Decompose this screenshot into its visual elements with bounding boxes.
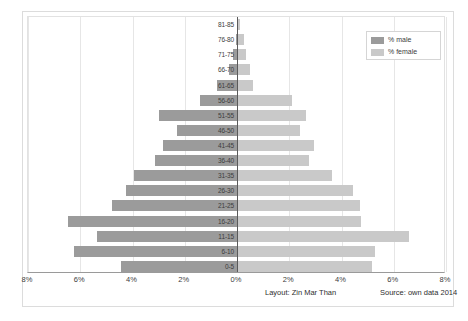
bar-female bbox=[237, 261, 372, 272]
bar-female bbox=[237, 110, 306, 121]
age-group-label: 6-10 bbox=[221, 246, 234, 257]
bar-female bbox=[237, 140, 314, 151]
age-group-label: 66-70 bbox=[218, 64, 234, 75]
layout-credit: Layout: Zin Mar Than bbox=[265, 288, 336, 297]
age-group-label: 46-50 bbox=[218, 125, 234, 136]
pyramid-row: 41-45 bbox=[28, 140, 444, 151]
pyramid-row: 81-85 bbox=[28, 19, 444, 30]
source-credit: Source: own data 2014 bbox=[380, 288, 457, 297]
pyramid-row: 16-20 bbox=[28, 216, 444, 227]
pyramid-row: 66-70 bbox=[28, 64, 444, 75]
age-group-label: 51-55 bbox=[218, 110, 234, 121]
chart-legend: % male % female bbox=[366, 31, 441, 60]
x-tick-label: 8% bbox=[440, 275, 451, 284]
chart-footer: Layout: Zin Mar Than Source: own data 20… bbox=[27, 288, 445, 300]
pyramid-row: 61-65 bbox=[28, 80, 444, 91]
x-tick-label: 4% bbox=[126, 275, 137, 284]
x-axis-tick-labels: 8%6%4%2%0%2%4%6%8% bbox=[27, 275, 445, 287]
male-swatch-icon bbox=[371, 37, 384, 44]
bar-male bbox=[68, 216, 237, 227]
legend-item-female: % female bbox=[371, 47, 436, 57]
age-group-label: 56-60 bbox=[218, 95, 234, 106]
bar-female bbox=[237, 80, 253, 91]
x-tick-label: 6% bbox=[387, 275, 398, 284]
pyramid-row: 21-25 bbox=[28, 200, 444, 211]
legend-label-female: % female bbox=[388, 48, 417, 56]
bar-female bbox=[237, 125, 300, 136]
chart-page: 81-8576-8071-7566-7061-6556-6051-5546-50… bbox=[0, 0, 468, 321]
age-group-label: 41-45 bbox=[218, 140, 234, 151]
age-group-label: 16-20 bbox=[218, 216, 234, 227]
age-group-label: 71-75 bbox=[218, 49, 234, 60]
pyramid-row: 56-60 bbox=[28, 95, 444, 106]
bar-female bbox=[237, 95, 292, 106]
x-tick-label: 2% bbox=[283, 275, 294, 284]
pyramid-row: 26-30 bbox=[28, 185, 444, 196]
pyramid-row: 46-50 bbox=[28, 125, 444, 136]
zero-axis-line bbox=[237, 17, 238, 272]
pyramid-row: 0-5 bbox=[28, 261, 444, 272]
x-tick-label: 2% bbox=[178, 275, 189, 284]
bar-female bbox=[237, 246, 375, 257]
bar-female bbox=[237, 185, 353, 196]
bar-female bbox=[237, 170, 332, 181]
age-group-label: 21-25 bbox=[218, 200, 234, 211]
female-swatch-icon bbox=[371, 49, 384, 56]
age-group-label: 26-30 bbox=[218, 185, 234, 196]
pyramid-row: 31-35 bbox=[28, 170, 444, 181]
age-group-label: 0-5 bbox=[225, 261, 234, 272]
legend-label-male: % male bbox=[388, 36, 411, 44]
x-tick-label: 6% bbox=[74, 275, 85, 284]
bar-male bbox=[121, 261, 237, 272]
age-group-label: 81-85 bbox=[218, 19, 234, 30]
age-group-label: 11-15 bbox=[218, 231, 234, 242]
bar-female bbox=[237, 216, 361, 227]
pyramid-row: 6-10 bbox=[28, 246, 444, 257]
age-group-label: 36-40 bbox=[218, 155, 234, 166]
pyramid-row: 11-15 bbox=[28, 231, 444, 242]
age-group-label: 31-35 bbox=[218, 170, 234, 181]
bar-female bbox=[237, 155, 309, 166]
bar-female bbox=[237, 231, 409, 242]
age-group-label: 76-80 bbox=[218, 34, 234, 45]
gridline bbox=[446, 17, 447, 272]
bar-female bbox=[237, 200, 360, 211]
pyramid-row: 51-55 bbox=[28, 110, 444, 121]
legend-item-male: % male bbox=[371, 35, 436, 45]
bar-female bbox=[237, 64, 250, 75]
age-group-label: 61-65 bbox=[218, 80, 234, 91]
x-tick-label: 0% bbox=[231, 275, 242, 284]
bar-male bbox=[74, 246, 237, 257]
pyramid-row: 36-40 bbox=[28, 155, 444, 166]
bar-male bbox=[97, 231, 237, 242]
bar-female bbox=[237, 49, 246, 60]
x-tick-label: 8% bbox=[22, 275, 33, 284]
x-tick-label: 4% bbox=[335, 275, 346, 284]
